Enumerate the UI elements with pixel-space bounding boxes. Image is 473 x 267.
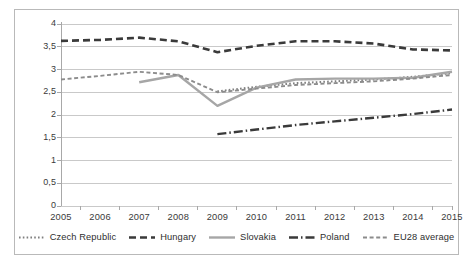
x-tick-label: 2008 <box>158 212 198 222</box>
legend-item-slovakia[interactable]: Slovakia <box>209 232 276 242</box>
y-tick-label: 1,5 <box>30 132 56 142</box>
x-tick-label: 2013 <box>354 212 394 222</box>
series-line-eu28-average <box>61 72 452 92</box>
y-tick-label: 1 <box>30 155 56 165</box>
y-tick-label: 0 <box>30 200 56 210</box>
x-tick-label: 2014 <box>393 212 433 222</box>
dashed-light-swatch <box>363 233 389 241</box>
x-tick-label: 2005 <box>41 212 81 222</box>
legend-item-czech-republic[interactable]: Czech Republic <box>19 232 117 242</box>
series-line-slovakia <box>139 72 452 106</box>
y-tick-label: 2 <box>30 109 56 119</box>
gridlines-group <box>61 24 452 206</box>
x-tick-label: 2011 <box>276 212 316 222</box>
legend-label: Czech Republic <box>50 232 117 242</box>
x-tickmarks-group <box>81 206 452 210</box>
chart-legend: Czech RepublicHungarySlovakiaPolandEU28 … <box>15 222 458 252</box>
y-tick-label: 3 <box>30 64 56 74</box>
x-tick-label: 2009 <box>197 212 237 222</box>
legend-item-poland[interactable]: Poland <box>289 232 350 242</box>
x-tick-label: 2015 <box>432 212 472 222</box>
y-tick-label: 2,5 <box>30 86 56 96</box>
y-tick-label: 3,5 <box>30 41 56 51</box>
dashdot-swatch <box>289 233 315 241</box>
series-line-hungary <box>61 38 452 53</box>
dotted-swatch <box>19 233 45 241</box>
y-tick-label: 0,5 <box>30 177 56 187</box>
axis-lines-group <box>57 22 61 206</box>
solid-swatch <box>209 233 235 241</box>
chart-plot-svg <box>15 10 458 220</box>
series-line-poland <box>217 110 452 135</box>
legend-label: Poland <box>320 232 350 242</box>
y-tick-label: 4 <box>30 18 56 28</box>
legend-label: Hungary <box>160 232 196 242</box>
x-tick-label: 2007 <box>119 212 159 222</box>
x-tick-label: 2006 <box>80 212 120 222</box>
dashed-swatch <box>129 233 155 241</box>
chart-figure: 00,511,522,533,54 2005200620072008200920… <box>14 9 459 255</box>
plot-area: 00,511,522,533,54 <box>15 10 458 220</box>
legend-label: EU28 average <box>394 232 455 242</box>
x-tick-label: 2012 <box>315 212 355 222</box>
series-lines-group <box>61 38 452 134</box>
legend-label: Slovakia <box>240 232 276 242</box>
legend-item-eu28-average[interactable]: EU28 average <box>363 232 455 242</box>
x-tick-label: 2010 <box>237 212 277 222</box>
legend-item-hungary[interactable]: Hungary <box>129 232 196 242</box>
